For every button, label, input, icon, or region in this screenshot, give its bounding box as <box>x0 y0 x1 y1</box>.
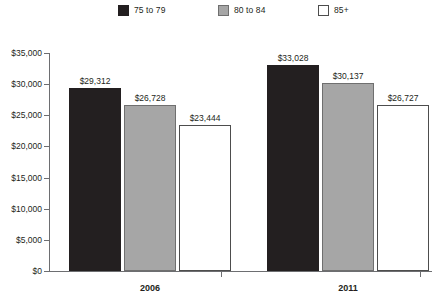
bar[interactable]: $29,312 <box>69 88 121 271</box>
x-axis-category-label: 2011 <box>338 283 358 293</box>
y-axis-tick <box>44 178 49 179</box>
bar-value-label: $30,137 <box>333 71 364 81</box>
bar-group: $29,312$26,728$23,444 <box>69 53 231 271</box>
y-axis-tick-label: $35,000 <box>11 49 42 58</box>
bar-value-label: $23,444 <box>190 113 221 123</box>
bar-value-label: $26,727 <box>388 93 419 103</box>
x-axis-tick <box>221 272 222 277</box>
bar[interactable]: $33,028 <box>267 65 319 271</box>
x-axis-line <box>49 271 432 272</box>
plot-area: $0$5,000$10,000$15,000$20,000$25,000$30,… <box>49 53 432 272</box>
legend-item-80-to-84[interactable]: 80 to 84 <box>218 2 266 18</box>
x-axis-tick <box>420 272 421 277</box>
y-axis-line <box>49 53 50 272</box>
y-axis-tick-label: $15,000 <box>11 173 42 182</box>
y-axis-tick <box>44 271 49 272</box>
grouped-bar-chart: 75 to 79 80 to 84 85+ $0$5,000$10,000$15… <box>0 0 439 305</box>
legend-swatch-icon-75-to-79 <box>118 5 129 16</box>
y-axis-tick-label: $30,000 <box>11 80 42 89</box>
bar-value-label: $29,312 <box>80 76 111 86</box>
legend-item-75-to-79[interactable]: 75 to 79 <box>118 2 166 18</box>
legend-swatch-icon-85-plus <box>318 5 329 16</box>
bar[interactable]: $23,444 <box>179 125 231 271</box>
y-axis-tick-label: $0 <box>33 267 42 276</box>
bar[interactable]: $26,728 <box>124 105 176 271</box>
bar[interactable]: $30,137 <box>322 83 374 271</box>
bar-group: $33,028$30,137$26,727 <box>267 53 429 271</box>
y-axis-tick-label: $25,000 <box>11 111 42 120</box>
bar-value-label: $26,728 <box>135 93 166 103</box>
y-axis-tick <box>44 84 49 85</box>
legend-label-80-to-84: 80 to 84 <box>234 5 266 16</box>
y-axis-tick-label: $10,000 <box>11 204 42 213</box>
y-axis-tick-label: $5,000 <box>16 235 42 244</box>
y-axis-tick-label: $20,000 <box>11 142 42 151</box>
y-axis-tick <box>44 146 49 147</box>
y-axis-tick <box>44 240 49 241</box>
bar[interactable]: $26,727 <box>377 105 429 271</box>
bar-value-label: $33,028 <box>278 53 309 63</box>
y-axis-tick <box>44 53 49 54</box>
legend-item-85-plus[interactable]: 85+ <box>318 2 349 18</box>
chart-legend: 75 to 79 80 to 84 85+ <box>0 2 439 20</box>
x-axis-category-label: 2006 <box>140 283 160 293</box>
legend-label-75-to-79: 75 to 79 <box>134 5 166 16</box>
legend-swatch-icon-80-to-84 <box>218 5 229 16</box>
legend-label-85-plus: 85+ <box>334 5 349 16</box>
y-axis-tick <box>44 209 49 210</box>
y-axis-tick <box>44 115 49 116</box>
